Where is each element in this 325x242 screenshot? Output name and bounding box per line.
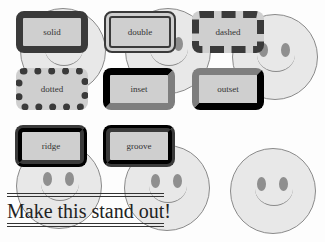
box-label: solid <box>43 27 61 37</box>
headline-rule-top-2 <box>7 196 164 197</box>
box-label: dashed <box>216 27 241 37</box>
box-label: outset <box>217 84 239 94</box>
smile-icon <box>255 189 293 206</box>
box-label: inset <box>131 84 148 94</box>
smiley-face-6 <box>230 148 316 234</box>
box-label: ridge <box>42 141 61 151</box>
box-dashed: dashed <box>192 11 264 53</box>
smile-icon <box>257 55 295 72</box>
box-label: double <box>128 27 153 37</box>
headline: Make this stand out! <box>7 198 171 224</box>
box-double: double <box>104 11 176 53</box>
box-dotted: dotted <box>16 68 88 110</box>
box-label: groove <box>127 141 152 151</box>
box-label: dotted <box>41 84 64 94</box>
headline-rule-bottom-2 <box>7 226 164 227</box>
box-outset: outset <box>192 68 264 110</box>
box-inset: inset <box>103 68 175 110</box>
box-groove: groove <box>103 125 175 167</box>
headline-rule-top <box>7 193 164 194</box>
box-solid: solid <box>16 11 88 53</box>
box-ridge: ridge <box>15 125 87 167</box>
headline-rule-bottom <box>7 223 164 224</box>
